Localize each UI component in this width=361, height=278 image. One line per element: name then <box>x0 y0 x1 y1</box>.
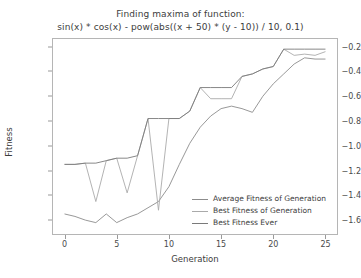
series-line <box>65 49 326 164</box>
x-tick-mark <box>169 235 170 239</box>
x-tick-label: 20 <box>258 240 288 249</box>
legend-item[interactable]: Best Fitness of Generation <box>192 205 332 217</box>
chart-title: Finding maxima of function: sin(x) * cos… <box>0 8 361 34</box>
x-tick-label: 5 <box>102 240 132 249</box>
chart-legend: Average Fitness of GenerationBest Fitnes… <box>192 193 332 229</box>
x-tick-label: 10 <box>154 240 184 249</box>
x-tick-mark <box>221 235 222 239</box>
legend-item[interactable]: Best Fitness Ever <box>192 217 332 229</box>
chart-title-line1: Finding maxima of function: <box>0 8 361 21</box>
legend-item-label: Best Fitness of Generation <box>213 205 312 217</box>
legend-swatch-icon <box>192 223 208 224</box>
legend-swatch-icon <box>192 211 208 212</box>
legend-item-label: Average Fitness of Generation <box>213 193 326 205</box>
chart-figure: Finding maxima of function: sin(x) * cos… <box>0 0 361 278</box>
x-tick-label: 25 <box>310 240 340 249</box>
legend-swatch-icon <box>192 199 208 200</box>
legend-item[interactable]: Average Fitness of Generation <box>192 193 332 205</box>
legend-item-label: Best Fitness Ever <box>213 217 277 229</box>
x-tick-label: 0 <box>50 240 80 249</box>
x-tick-mark <box>325 235 326 239</box>
x-tick-mark <box>273 235 274 239</box>
y-axis-label: Fitness <box>4 112 14 172</box>
chart-title-line2: sin(x) * cos(x) - pow(abs((x + 50) * (y … <box>0 21 361 34</box>
series-line <box>65 49 326 210</box>
x-tick-mark <box>117 235 118 239</box>
x-axis-label: Generation <box>52 254 338 264</box>
x-tick-mark <box>65 235 66 239</box>
x-tick-label: 15 <box>206 240 236 249</box>
